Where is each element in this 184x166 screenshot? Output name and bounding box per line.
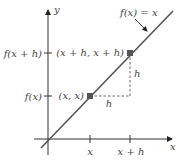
diagram-canvas: y x f(x + h) f(x) x x + h h h (x, x) (x …	[0, 0, 184, 166]
vertical-increment-label: h	[134, 68, 140, 79]
y-axis-label: y	[53, 4, 60, 15]
point-label-x-x: (x, x)	[59, 90, 85, 101]
horizontal-increment-label: h	[106, 98, 112, 109]
point-label-xh-xh: (x + h, x + h)	[56, 47, 124, 58]
function-line	[41, 11, 173, 148]
function-label: f(x) = x	[119, 7, 158, 18]
x-axis-label: x	[170, 141, 176, 152]
point-xh-xh	[127, 50, 133, 56]
point-x-x	[87, 93, 93, 99]
y-tick-label-fx: f(x)	[24, 91, 42, 102]
function-label-arrow	[135, 19, 147, 31]
x-tick-label-x: x	[87, 146, 93, 157]
x-tick-label-xh: x + h	[118, 146, 145, 157]
y-tick-label-fxh: f(x + h)	[3, 48, 42, 59]
